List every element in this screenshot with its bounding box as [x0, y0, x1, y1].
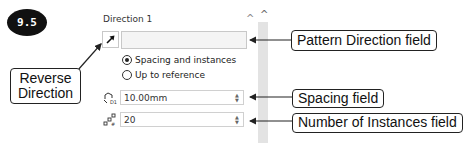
callout-reverse-direction: Reverse Direction: [10, 68, 81, 104]
callout-pattern-direction: Pattern Direction field: [291, 30, 437, 51]
callout-line: Direction: [15, 86, 76, 101]
callout-instances: Number of Instances field: [292, 113, 463, 133]
callout-spacing: Spacing field: [292, 89, 384, 108]
callout-line: Reverse: [15, 71, 76, 86]
